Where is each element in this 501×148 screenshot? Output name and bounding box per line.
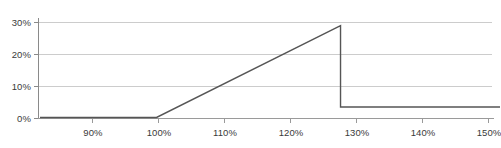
x-tick-label-100: 100%	[147, 127, 172, 138]
y-tick-label-10: 10%	[0, 81, 31, 92]
x-tick-label-150: 150%	[477, 127, 501, 138]
y-tick-label-0: 0%	[0, 113, 31, 124]
x-tick-label-110: 110%	[213, 127, 237, 138]
x-tick-label-130: 130%	[345, 127, 370, 138]
axes	[38, 18, 494, 119]
x-tick-label-90: 90%	[83, 127, 102, 138]
data-series-line	[40, 26, 500, 118]
y-tick-label-30: 30%	[0, 17, 31, 28]
gridlines	[38, 22, 492, 86]
y-tick-label-20: 20%	[0, 49, 31, 60]
y-axis-ticks	[34, 23, 38, 119]
x-tick-label-140: 140%	[411, 127, 436, 138]
x-tick-label-120: 120%	[279, 127, 304, 138]
